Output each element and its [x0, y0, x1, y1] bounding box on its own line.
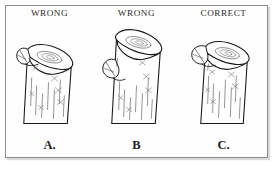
figure-root: WRONG	[0, 0, 275, 169]
branch-illustration-c	[180, 20, 267, 128]
panel-c: CORRECT	[180, 6, 267, 157]
panel-a: WRONG	[6, 6, 93, 157]
verdict-label-a: WRONG	[6, 9, 93, 18]
panel-b: WRONG	[93, 6, 180, 157]
panel-caption-b: B	[93, 139, 180, 152]
verdict-label-b: WRONG	[93, 9, 180, 18]
verdict-label-c: CORRECT	[180, 9, 267, 18]
panel-group: WRONG	[6, 6, 267, 157]
panel-caption-a: A.	[6, 139, 93, 152]
panel-caption-c: C.	[180, 139, 267, 152]
figure-border: WRONG	[5, 5, 268, 158]
branch-illustration-b	[93, 20, 180, 128]
branch-illustration-a	[6, 20, 93, 128]
